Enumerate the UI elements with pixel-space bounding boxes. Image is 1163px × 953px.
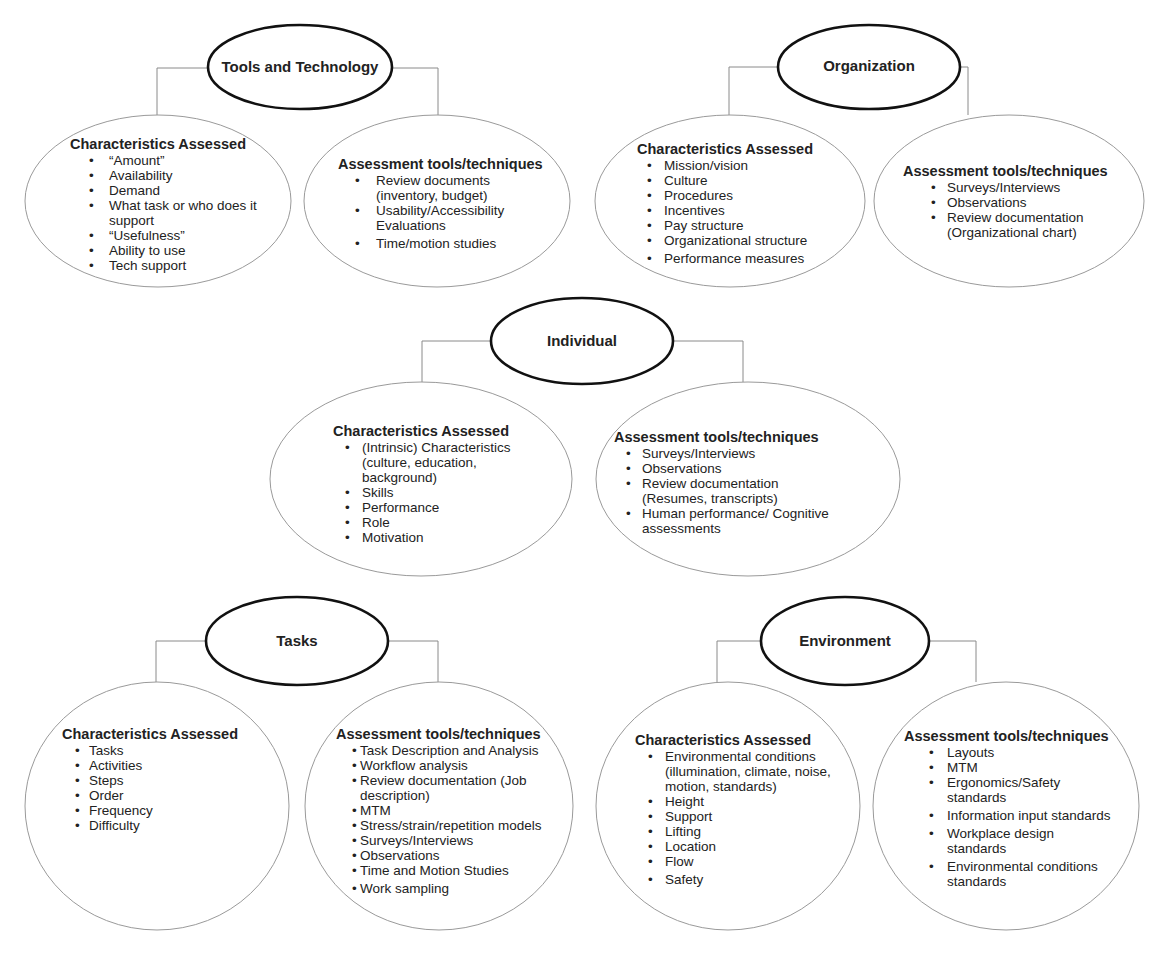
individual-characteristics: Characteristics Assessed (Intrinsic) Cha…	[333, 424, 511, 545]
connector-left	[422, 341, 491, 382]
section-title: Characteristics Assessed	[637, 142, 813, 157]
list-item: Layouts	[904, 745, 1111, 760]
section-title: Characteristics Assessed	[62, 727, 238, 742]
list-item: (Intrinsic) Characteristics (culture, ed…	[333, 440, 511, 485]
connector-left	[729, 67, 778, 115]
environment-assessment: Assessment tools/techniques Layouts MTM …	[904, 729, 1111, 889]
connector-left	[717, 641, 761, 682]
list-item: Lifting	[635, 824, 831, 839]
list-item: Motivation	[333, 530, 511, 545]
list-item: Surveys/Interviews	[903, 180, 1108, 195]
list-item: Tech support	[70, 258, 257, 273]
assessment-list: Review documents (inventory, budget) Usa…	[338, 173, 543, 251]
list-item: Incentives	[637, 203, 813, 218]
list-item: Observations	[903, 195, 1108, 210]
list-item: Task Description and Analysis	[336, 743, 542, 758]
list-item: Skills	[333, 485, 511, 500]
list-item: Performance	[333, 500, 511, 515]
list-item: Time/motion studies	[338, 236, 543, 251]
individual-assessment: Assessment tools/techniques Surveys/Inte…	[614, 430, 829, 536]
list-item: Workplace design standards	[904, 826, 1111, 856]
assessment-list: Surveys/Interviews Observations Review d…	[903, 180, 1108, 240]
list-item: Ability to use	[70, 243, 257, 258]
list-item: Environmental conditions standards	[904, 859, 1111, 889]
list-item: Surveys/Interviews	[336, 833, 542, 848]
list-item: Role	[333, 515, 511, 530]
section-title: Characteristics Assessed	[70, 137, 257, 152]
list-item: Time and Motion Studies	[336, 863, 542, 878]
section-title: Assessment tools/techniques	[903, 164, 1108, 179]
list-item: Review documentation (Job description)	[336, 773, 542, 803]
characteristics-list: Tasks Activities Steps Order Frequency D…	[62, 743, 238, 833]
list-item: Ergonomics/Safety standards	[904, 775, 1111, 805]
list-item: Information input standards	[904, 808, 1111, 823]
list-item: Availability	[70, 168, 257, 183]
list-item: Support	[635, 809, 831, 824]
connector-right	[960, 67, 968, 115]
list-item: Stress/strain/repetition models	[336, 818, 542, 833]
list-item: Observations	[336, 848, 542, 863]
section-title: Assessment tools/techniques	[904, 729, 1111, 744]
list-item: What task or who does it support	[70, 198, 257, 228]
list-item: Safety	[635, 872, 831, 887]
list-item: Organizational structure	[637, 233, 813, 248]
list-item: Human performance/ Cognitive assessments	[614, 506, 829, 536]
list-item: “Amount”	[70, 153, 257, 168]
list-item: Difficulty	[62, 818, 238, 833]
list-item: Review documentation (Organizational cha…	[903, 210, 1108, 240]
characteristics-list: Environmental conditions (illumination, …	[635, 749, 831, 887]
header-tools-and-technology: Tools and Technology	[222, 58, 379, 75]
assessment-list: Layouts MTM Ergonomics/Safety standards …	[904, 745, 1111, 889]
list-item: Review documentation (Resumes, transcrip…	[614, 476, 829, 506]
connector-right	[929, 641, 976, 682]
section-title: Characteristics Assessed	[635, 733, 831, 748]
section-title: Assessment tools/techniques	[336, 727, 542, 742]
header-tasks: Tasks	[276, 632, 317, 649]
assessment-list: Task Description and Analysis Workflow a…	[336, 743, 542, 896]
connector-right	[392, 68, 438, 115]
list-item: Flow	[635, 854, 831, 869]
list-item: Performance measures	[637, 251, 813, 266]
list-item: Observations	[614, 461, 829, 476]
list-item: Order	[62, 788, 238, 803]
list-item: Procedures	[637, 188, 813, 203]
list-item: Activities	[62, 758, 238, 773]
section-title: Characteristics Assessed	[333, 424, 511, 439]
section-title: Assessment tools/techniques	[338, 157, 543, 172]
list-item: Work sampling	[336, 881, 542, 896]
characteristics-list: (Intrinsic) Characteristics (culture, ed…	[333, 440, 511, 545]
list-item: “Usefulness”	[70, 228, 257, 243]
list-item: MTM	[336, 803, 542, 818]
header-environment: Environment	[799, 632, 891, 649]
list-item: Demand	[70, 183, 257, 198]
connector-right	[388, 641, 438, 682]
tools-assessment: Assessment tools/techniques Review docum…	[338, 157, 543, 251]
assessment-list: Surveys/Interviews Observations Review d…	[614, 446, 829, 536]
header-organization: Organization	[823, 57, 915, 74]
list-item: Workflow analysis	[336, 758, 542, 773]
section-title: Assessment tools/techniques	[614, 430, 829, 445]
list-item: Frequency	[62, 803, 238, 818]
characteristics-list: “Amount” Availability Demand What task o…	[70, 153, 257, 273]
characteristics-list: Mission/vision Culture Procedures Incent…	[637, 158, 813, 266]
connector-left	[156, 641, 206, 682]
connector-left	[157, 68, 208, 115]
list-item: Review documents (inventory, budget)	[338, 173, 543, 203]
list-item: Pay structure	[637, 218, 813, 233]
organization-characteristics: Characteristics Assessed Mission/vision …	[637, 142, 813, 266]
list-item: Surveys/Interviews	[614, 446, 829, 461]
list-item: Usability/Accessibility Evaluations	[338, 203, 543, 233]
list-item: Environmental conditions (illumination, …	[635, 749, 831, 794]
list-item: MTM	[904, 760, 1111, 775]
list-item: Mission/vision	[637, 158, 813, 173]
list-item: Tasks	[62, 743, 238, 758]
connector-right	[672, 341, 743, 382]
environment-characteristics: Characteristics Assessed Environmental c…	[635, 733, 831, 887]
list-item: Steps	[62, 773, 238, 788]
list-item: Culture	[637, 173, 813, 188]
tasks-characteristics: Characteristics Assessed Tasks Activitie…	[62, 727, 238, 833]
header-individual: Individual	[547, 332, 617, 349]
list-item: Location	[635, 839, 831, 854]
tools-characteristics: Characteristics Assessed “Amount” Availa…	[70, 137, 257, 273]
organization-assessment: Assessment tools/techniques Surveys/Inte…	[903, 164, 1108, 240]
